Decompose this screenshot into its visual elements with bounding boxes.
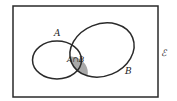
intersection-label: A∩B — [66, 55, 85, 64]
set-a-label: A — [53, 28, 61, 38]
universal-set-label: ℰ — [161, 48, 168, 58]
set-b-label: B — [124, 66, 132, 76]
venn-diagram: A B A∩B ℰ — [0, 0, 177, 101]
